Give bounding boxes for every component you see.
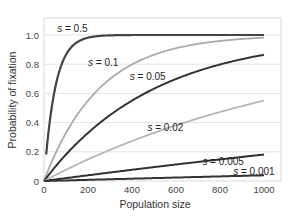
- y-tick-label: 0.8: [26, 59, 39, 70]
- curve-0.5: [46, 35, 264, 155]
- curve-label: s = 0.1: [88, 57, 119, 68]
- curve-label: s = 0.05: [130, 71, 166, 82]
- x-tick-label: 400: [124, 184, 140, 195]
- x-tick-label: 1000: [253, 184, 274, 195]
- curve-label: s = 0.5: [57, 23, 88, 34]
- x-tick-label: 200: [80, 184, 96, 195]
- x-axis-label: Population size: [119, 198, 190, 210]
- y-tick-label: 0: [34, 176, 39, 187]
- curve-label: s = 0.001: [233, 166, 275, 177]
- x-tick-label: 800: [212, 184, 228, 195]
- y-axis-ticks: 00.20.40.60.81.0: [26, 30, 39, 187]
- curve-labels: s = 0.5s = 0.1s = 0.05s = 0.02s = 0.005s…: [57, 23, 275, 177]
- x-axis-ticks: 02004006008001000: [41, 184, 274, 195]
- curve-0.02: [44, 101, 264, 181]
- fixation-probability-chart: 00.20.40.60.81.0 02004006008001000 s = 0…: [0, 0, 294, 221]
- y-tick-label: 0.6: [26, 88, 39, 99]
- curve-label: s = 0.02: [147, 122, 183, 133]
- y-tick-label: 0.2: [26, 146, 39, 157]
- y-tick-label: 1.0: [26, 30, 39, 41]
- x-tick-label: 0: [41, 184, 46, 195]
- y-tick-label: 0.4: [26, 117, 39, 128]
- y-axis-label: Probability of fixation: [6, 51, 18, 148]
- x-tick-label: 600: [168, 184, 184, 195]
